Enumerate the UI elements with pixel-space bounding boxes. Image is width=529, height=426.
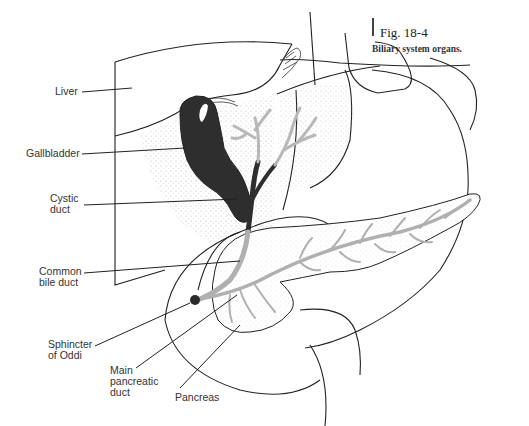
lower-vessels (300, 309, 360, 426)
sphincter-of-oddi (190, 295, 200, 305)
label-sphincter-of-oddi: Sphincter of Oddi (48, 339, 92, 361)
label-gallbladder: Gallbladder (26, 148, 80, 159)
label-cystic-duct: Cystic duct (50, 193, 79, 215)
label-main-pancreatic-duct: Main pancreatic duct (110, 365, 158, 398)
figure-title: Biliary system organs. (372, 44, 462, 54)
label-main-pancreatic-duct-line3: duct (110, 387, 158, 398)
caption-marker (372, 18, 374, 36)
label-pancreas: Pancreas (175, 392, 219, 403)
label-liver: Liver (55, 86, 78, 97)
label-common-bile-duct: Common bile duct (39, 266, 82, 288)
biliary-system-diagram (0, 0, 529, 426)
label-sphincter-line2: of Oddi (48, 350, 92, 361)
label-common-bile-duct-line2: bile duct (39, 277, 82, 288)
figure-number: Fig. 18-4 (380, 25, 428, 41)
label-cystic-duct-line2: duct (50, 204, 79, 215)
